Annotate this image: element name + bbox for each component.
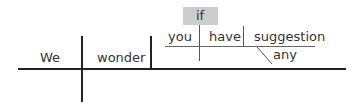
modifier-diagonal xyxy=(0,0,358,108)
modifier-word: any xyxy=(273,48,297,62)
sentence-diagram: We wonder if you have suggestion any xyxy=(0,0,358,108)
